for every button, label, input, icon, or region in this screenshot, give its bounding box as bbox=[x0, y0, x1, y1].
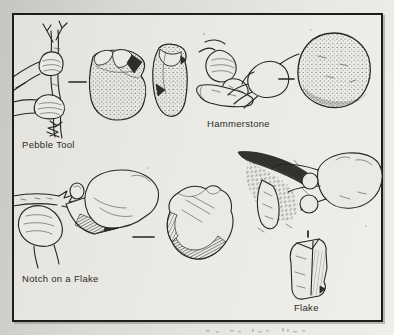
notched-flake-drawing bbox=[167, 186, 233, 259]
fingertip bbox=[302, 173, 318, 189]
flake-scene-drawing bbox=[238, 152, 382, 249]
label-pebble-tool: Pebble Tool bbox=[22, 139, 75, 150]
label-flake: Flake bbox=[294, 302, 319, 313]
notch-scene-drawing bbox=[13, 170, 159, 268]
pebble-tools-drawing bbox=[90, 44, 188, 120]
thumb bbox=[70, 183, 84, 199]
small-flake-drawing bbox=[290, 239, 327, 299]
label-notch-on-a-flake: Notch on a Flake bbox=[22, 273, 99, 284]
sapling-branch bbox=[43, 21, 67, 138]
illustration-canvas bbox=[0, 0, 394, 335]
chopped-fray-marks bbox=[47, 121, 62, 137]
hammerstone-scene-drawing bbox=[197, 40, 299, 108]
hammerstone-drawing bbox=[298, 33, 370, 108]
illustration-plate: Pebble Tool Hammerstone Notch on a Flake… bbox=[0, 0, 394, 335]
cut-off-caption-marks bbox=[206, 328, 305, 332]
scanned-page: { "labels": { "pebble_tool": "Pebble Too… bbox=[0, 0, 394, 335]
wooden-shaft bbox=[13, 191, 75, 208]
label-hammerstone: Hammerstone bbox=[207, 118, 270, 129]
pebble-tool-scene-drawing bbox=[13, 21, 86, 138]
thumb-tip bbox=[300, 195, 318, 213]
lower-hand-holding-branch bbox=[13, 95, 64, 119]
lower-hand-holding-shaft bbox=[18, 206, 62, 268]
